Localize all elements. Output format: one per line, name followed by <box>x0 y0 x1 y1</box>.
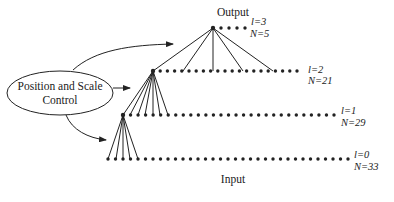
node-dot <box>259 69 262 72</box>
node-dot <box>219 157 222 160</box>
controller-label-line1: Position and Scale <box>18 80 103 92</box>
node-dot <box>249 157 252 160</box>
node-dot <box>231 69 234 72</box>
node-dot <box>235 26 238 29</box>
node-dot <box>286 157 289 160</box>
node-dot <box>317 113 320 116</box>
fanout-level1-to-level0 <box>108 115 138 159</box>
node-dot <box>234 113 237 116</box>
node-dot <box>204 157 207 160</box>
node-dot <box>227 113 230 116</box>
node-dot <box>189 157 192 160</box>
node-dot <box>174 157 177 160</box>
node-dot <box>189 113 192 116</box>
node-dot <box>159 157 162 160</box>
level0-labels: l=0 N=33 <box>353 149 379 172</box>
node-dot <box>324 157 327 160</box>
level2-l-label: l=2 <box>308 64 324 75</box>
node-dot <box>242 113 245 116</box>
level1-n-label: N=29 <box>340 117 366 128</box>
hierarchy-diagram: Position and Scale Control Output Input <box>0 0 394 202</box>
node-dot <box>166 157 169 160</box>
level2-labels: l=2 N=21 <box>307 64 333 86</box>
node-dot <box>219 26 222 29</box>
node-dot <box>295 113 298 116</box>
node-dot <box>310 113 313 116</box>
node-dot <box>187 69 190 72</box>
node-dot <box>241 157 244 160</box>
node-dot <box>202 69 205 72</box>
node-dot <box>281 69 284 72</box>
node-dot <box>182 113 185 116</box>
node-dot <box>151 113 154 116</box>
node-dot <box>195 69 198 72</box>
node-dot <box>249 113 252 116</box>
node-dot <box>234 157 237 160</box>
node-dot <box>216 69 219 72</box>
node-dot <box>209 69 212 72</box>
node-dot <box>129 113 132 116</box>
node-dot <box>121 113 125 117</box>
node-dot <box>144 157 147 160</box>
node-dot <box>243 26 246 29</box>
output-label: Output <box>217 6 250 19</box>
node-dot <box>159 69 162 72</box>
control-arrow-to-level0 <box>66 115 106 140</box>
node-dot <box>309 157 312 160</box>
level0-l-label: l=0 <box>354 149 370 160</box>
node-dot <box>219 113 222 116</box>
node-dot <box>294 157 297 160</box>
node-dot <box>339 157 342 160</box>
node-dot <box>346 157 349 160</box>
node-dot <box>211 157 214 160</box>
node-dot <box>331 157 334 160</box>
node-dot <box>167 113 170 116</box>
node-dot <box>264 157 267 160</box>
node-dot <box>316 157 319 160</box>
node-dot <box>181 157 184 160</box>
node-dot <box>151 157 154 160</box>
node-dot <box>159 113 162 116</box>
node-dot <box>197 113 200 116</box>
node-dot <box>271 157 274 160</box>
node-dot <box>196 157 199 160</box>
node-dot <box>173 69 176 72</box>
level3-l-label: l=3 <box>251 16 266 27</box>
fanout-level2-to-level1 <box>123 71 168 115</box>
node-dot <box>302 113 305 116</box>
node-dot <box>267 69 270 72</box>
node-dot <box>256 157 259 160</box>
node-dot <box>204 113 207 116</box>
node-dot <box>136 113 139 116</box>
node-dot <box>106 157 109 160</box>
level0-n-label: N=33 <box>353 161 379 172</box>
node-dot <box>114 157 117 160</box>
node-dot <box>257 113 260 116</box>
node-dot <box>212 113 215 116</box>
node-dot <box>223 69 226 72</box>
node-dot <box>180 69 183 72</box>
controller-label-line2: Control <box>42 94 77 106</box>
node-dot <box>174 113 177 116</box>
level3-labels: l=3 N=5 <box>249 16 269 39</box>
node-dot <box>129 157 132 160</box>
node-dot <box>227 26 230 29</box>
position-scale-control-node: Position and Scale Control <box>7 71 113 115</box>
control-arrow-to-level2 <box>73 44 173 70</box>
node-dot <box>151 69 155 73</box>
node-dot <box>279 157 282 160</box>
node-dot <box>332 113 335 116</box>
node-dot <box>274 69 277 72</box>
node-dot <box>211 26 215 30</box>
node-dot <box>238 69 241 72</box>
node-dot <box>280 113 283 116</box>
node-dot <box>288 69 291 72</box>
level2-n-label: N=21 <box>307 75 333 86</box>
node-dot <box>252 69 255 72</box>
node-dot <box>301 157 304 160</box>
level3-n-label: N=5 <box>249 28 269 39</box>
node-dot <box>144 113 147 116</box>
node-dot <box>121 157 124 160</box>
node-dot <box>245 69 248 72</box>
node-dot <box>295 69 298 72</box>
